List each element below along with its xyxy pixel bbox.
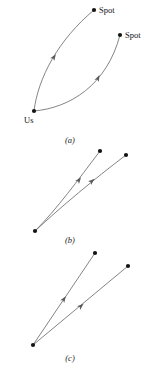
panel-caption-a: (a) [65,135,75,145]
node-dot-a-Spot-lower [118,33,122,37]
direction-arrow-icon [60,295,68,303]
figure-canvas: UsSpotSpot (a)(b)(c) [0,0,161,374]
panels-layer: UsSpotSpot [24,5,141,347]
node-dot-c-target-upper [93,251,97,255]
node-dot-c-origin [31,343,35,347]
node-label-a-Spot-lower: Spot [125,30,141,40]
path-a-1 [34,10,94,111]
path-b-2 [35,155,126,231]
node-label-a-Spot-upper: Spot [99,5,115,15]
panel-c [31,251,130,347]
node-dot-c-target-right [126,264,130,268]
figure-root: UsSpotSpot (a)(b)(c) [0,0,161,374]
captions-layer: (a)(b)(c) [65,135,75,363]
node-dot-b-target-right [124,153,128,157]
node-dot-b-target-upper [98,149,102,153]
node-dot-a-Spot-upper [92,8,96,12]
node-dot-a-Us [32,109,36,113]
panel-caption-c: (c) [65,353,75,363]
node-dot-b-origin [33,229,37,233]
node-label-a-Us: Us [24,115,33,125]
panel-b [33,149,128,233]
path-a-2 [34,35,120,111]
path-b-1 [35,151,100,231]
panel-caption-b: (b) [65,235,75,245]
panel-a: UsSpotSpot [24,5,141,125]
